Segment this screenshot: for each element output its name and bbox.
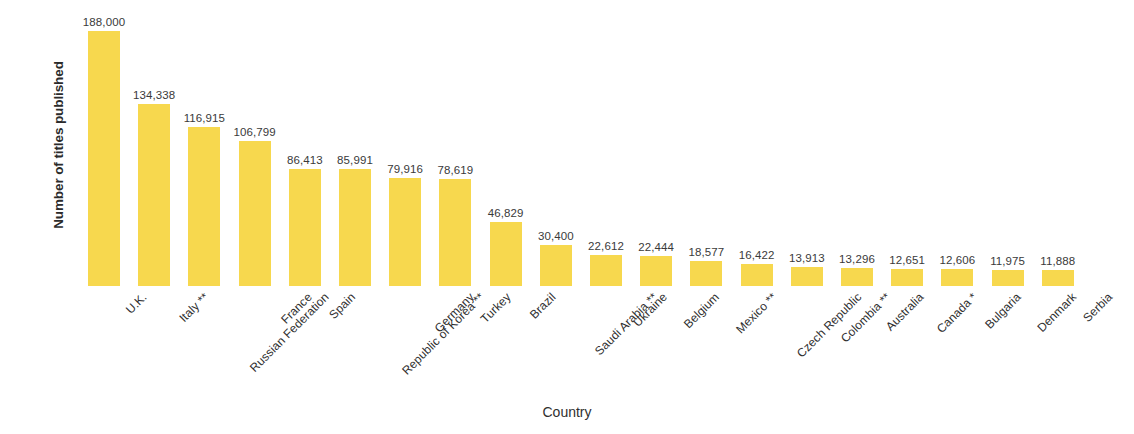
x-axis-category-label: Turkey <box>478 290 514 326</box>
bar[interactable] <box>138 104 170 286</box>
bar-value-label: 30,400 <box>538 230 574 242</box>
bar-value-label: 116,915 <box>184 112 225 124</box>
bar-value-label: 18,577 <box>689 246 725 258</box>
bar-value-label: 78,619 <box>438 164 474 176</box>
x-axis-category-label: Bulgaria <box>983 290 1025 332</box>
bar-group: 30,400 <box>540 10 572 286</box>
x-axis-category-label: Brazil <box>527 290 559 322</box>
x-axis-title: Country <box>0 404 1134 420</box>
x-axis-category-label: Russian Federation <box>247 290 332 375</box>
bar-value-label: 85,991 <box>337 154 373 166</box>
bar-value-label: 22,612 <box>588 240 624 252</box>
bar-group: 78,619 <box>439 10 471 286</box>
bar-group: 85,991 <box>339 10 371 286</box>
bar[interactable] <box>992 270 1024 286</box>
bar[interactable] <box>741 264 773 286</box>
bar[interactable] <box>791 267 823 286</box>
bar-group: 18,577 <box>690 10 722 286</box>
bar-value-label: 188,000 <box>83 16 125 28</box>
bar-value-label: 12,651 <box>889 254 925 266</box>
bar-value-label: 11,975 <box>990 255 1025 267</box>
bar[interactable] <box>439 179 471 286</box>
bar[interactable] <box>88 31 120 286</box>
y-axis-title: Number of titles published in the two se… <box>16 35 50 255</box>
bar-group: 11,975 <box>992 10 1024 286</box>
bar[interactable] <box>540 245 572 286</box>
y-axis-title-line-1: Number of titles published <box>50 35 67 255</box>
bar-value-label: 12,606 <box>940 254 976 266</box>
x-axis-category-label: Italy ** <box>177 290 212 325</box>
bar-group: 22,444 <box>640 10 672 286</box>
bar-value-label: 11,888 <box>1040 255 1075 267</box>
bar[interactable] <box>640 256 672 286</box>
bar-value-label: 134,338 <box>133 89 175 101</box>
x-axis-category-label: Denmark <box>1034 290 1079 335</box>
bar-group: 79,916 <box>389 10 421 286</box>
bar-group: 134,338 <box>138 10 170 286</box>
bar-group: 12,651 <box>891 10 923 286</box>
bar-value-label: 22,444 <box>638 241 674 253</box>
bar-value-label: 106,799 <box>233 126 275 138</box>
bar-value-label: 86,413 <box>287 154 323 166</box>
bar[interactable] <box>490 222 522 286</box>
bar-group: 13,913 <box>791 10 823 286</box>
x-axis-category-label: U.K. <box>123 290 150 317</box>
bar[interactable] <box>1042 270 1074 286</box>
plot-area: 188,000134,338116,915106,79986,41385,991… <box>80 10 1110 286</box>
x-axis-category-label: Mexico ** <box>734 290 780 336</box>
bar[interactable] <box>590 255 622 286</box>
bar-group: 86,413 <box>289 10 321 286</box>
bar[interactable] <box>339 169 371 286</box>
bar-group: 16,422 <box>741 10 773 286</box>
x-axis-category-label: Serbia <box>1080 290 1115 325</box>
bar[interactable] <box>841 268 873 286</box>
bar[interactable] <box>941 269 973 286</box>
bar[interactable] <box>289 169 321 286</box>
x-axis-category-label: Belgium <box>681 290 722 331</box>
bar[interactable] <box>188 127 220 286</box>
bar-group: 106,799 <box>239 10 271 286</box>
bar-value-label: 16,422 <box>739 249 775 261</box>
x-axis-category-label: Spain <box>326 290 358 322</box>
bar-value-label: 13,296 <box>839 253 875 265</box>
x-axis-category-label: Republic of Korea ** <box>399 290 487 378</box>
bar-value-label: 13,913 <box>789 252 825 264</box>
bar-group: 46,829 <box>490 10 522 286</box>
bar-chart: Number of titles published in the two se… <box>0 0 1134 434</box>
bar[interactable] <box>891 269 923 286</box>
bar-value-label: 79,916 <box>387 163 423 175</box>
bar-group: 12,606 <box>941 10 973 286</box>
bar[interactable] <box>690 261 722 286</box>
bar[interactable] <box>239 141 271 286</box>
x-axis-category-label: Canada * <box>934 290 980 336</box>
bar-value-label: 46,829 <box>488 207 524 219</box>
bar-group: 11,888 <box>1042 10 1074 286</box>
bar-group: 188,000 <box>88 10 120 286</box>
bar-group: 13,296 <box>841 10 873 286</box>
bar[interactable] <box>389 178 421 286</box>
bar-group: 22,612 <box>590 10 622 286</box>
bar-group: 116,915 <box>188 10 220 286</box>
